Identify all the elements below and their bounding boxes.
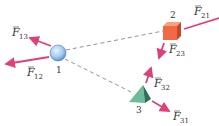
object-3-label: 3 [136, 105, 142, 115]
svg-text:21: 21 [201, 12, 210, 20]
label-f31: F 31 [172, 110, 189, 125]
svg-text:23: 23 [176, 50, 185, 58]
svg-text:32: 32 [161, 84, 170, 92]
object-2-label: 2 [170, 10, 176, 20]
svg-text:13: 13 [19, 33, 28, 41]
dashed-line-1-2 [66, 31, 163, 50]
object-1-label: 1 [56, 65, 62, 75]
force-arrow-f13 [30, 38, 51, 46]
label-f13: F 13 [11, 26, 28, 41]
svg-text:12: 12 [34, 73, 43, 81]
force-arrow-f23 [159, 43, 164, 58]
svg-text:31: 31 [180, 117, 189, 125]
label-f12: F 12 [26, 66, 43, 81]
dashed-line-1-3 [65, 59, 131, 92]
label-f32: F 32 [153, 77, 170, 92]
pyramid-object-3 [129, 85, 151, 103]
force-diagram: 1 2 3 F 13 F 12 F 21 F 23 F 32 [0, 0, 219, 126]
force-arrow-f31 [152, 101, 169, 111]
force-arrow-f32 [146, 68, 151, 83]
label-f21: F 21 [193, 5, 210, 20]
sphere-object-1 [50, 45, 66, 61]
force-arrow-f12 [6, 57, 49, 64]
label-f23: F 23 [168, 43, 185, 58]
cube-object-2 [163, 22, 181, 40]
